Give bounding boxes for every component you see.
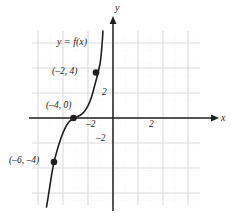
tick-label-x-minus-2: –2 [86, 119, 96, 129]
x-axis-name: x [221, 112, 225, 123]
tick-label-x-positive-2: 2 [149, 119, 154, 129]
point-label-minus4-0: (–4, 0) [46, 100, 71, 110]
point-label-minus2-4: (–2, 4) [52, 66, 77, 76]
point-minus6-minus4 [51, 159, 58, 166]
point-minus2-4 [93, 69, 100, 76]
function-label: y = f(x) [57, 36, 87, 47]
y-axis-name: y [115, 2, 119, 13]
tick-label-y-positive-2: 2 [102, 87, 107, 97]
point-label-minus6-minus4: (–6, –4) [9, 155, 39, 165]
point-minus4-0 [70, 115, 77, 122]
graph-figure: y = f(x) (–2, 4) (–4, 0) (–6, –4) –2 2 2… [0, 0, 231, 222]
tick-label-y-negative-2: –2 [96, 133, 106, 143]
coordinate-plane-svg [0, 0, 231, 222]
